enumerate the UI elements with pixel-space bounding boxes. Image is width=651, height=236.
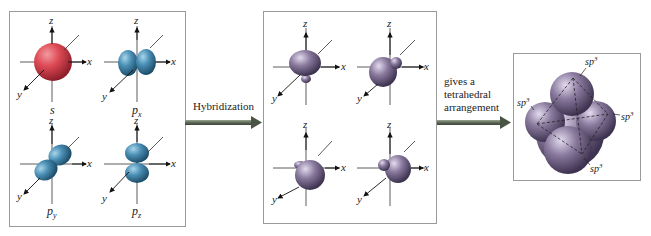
py-x-axis-label: x: [87, 157, 92, 169]
h2-z-axis-label: z: [387, 17, 391, 29]
s-y-axis-label: y: [17, 88, 22, 100]
s-x-axis-label: x: [87, 55, 92, 67]
h1-y-axis-label: y: [272, 92, 277, 104]
h1-x-axis-label: x: [341, 60, 346, 72]
px-z-axis-label: z: [134, 14, 138, 26]
sp3-label-bottom: sp3: [590, 162, 602, 174]
pz-orbital-diagram: [104, 124, 170, 204]
h4-y-axis-label: y: [357, 193, 362, 205]
px-orbital-label: px: [132, 103, 142, 119]
s-orbital-diagram: [20, 26, 86, 102]
hybridization-label: Hybridization: [193, 100, 254, 113]
hybrid-orbitals-panel: [263, 11, 437, 224]
h2-x-axis-label: x: [424, 60, 429, 72]
h3-x-axis-label: x: [341, 161, 346, 173]
hybridization-arrow: [185, 116, 262, 129]
pz-x-axis-label: x: [171, 157, 176, 169]
s-z-axis-label: z: [49, 14, 53, 26]
py-orbital-diagram: [20, 124, 86, 204]
h4-x-axis-label: x: [424, 161, 429, 173]
s-orbital-label: s: [50, 103, 55, 118]
sp3-label-top: sp3: [585, 55, 597, 67]
pz-orbital-label: pz: [132, 204, 141, 220]
sp3-label-right: sp3: [621, 110, 633, 122]
sp3-label-left: sp3: [517, 96, 529, 108]
tetrahedral-arrow: [436, 116, 511, 129]
h2-y-axis-label: y: [357, 92, 362, 104]
pz-y-axis-label: y: [102, 192, 107, 204]
py-orbital-label: py: [47, 204, 57, 220]
py-y-axis-label: y: [17, 190, 22, 202]
px-x-axis-label: x: [171, 55, 176, 67]
px-y-axis-label: y: [102, 90, 107, 102]
h3-y-axis-label: y: [272, 193, 277, 205]
tetrahedral-arrangement-label: gives a tetrahedral arrangement: [444, 75, 499, 114]
h1-z-axis-label: z: [303, 17, 307, 29]
px-orbital-diagram: [104, 26, 170, 102]
h3-z-axis-label: z: [303, 118, 307, 130]
h4-z-axis-label: z: [387, 118, 391, 130]
